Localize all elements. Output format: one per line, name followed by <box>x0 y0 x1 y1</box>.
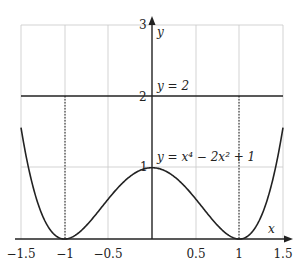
x-axis-arrow-icon <box>284 236 293 243</box>
tick-y2: 2 <box>139 90 147 104</box>
curve-label: y = x⁴ − 2x² + 1 <box>156 150 255 164</box>
y-axis-arrow-icon <box>149 16 156 25</box>
tick-x-1: 1 <box>235 247 243 261</box>
x-axis-label: x <box>268 222 275 236</box>
chart-canvas: 3 2 1 −1.5 −1 −0.5 0.5 1 1.5 x y y = 2 y… <box>0 0 302 272</box>
tick-x-m1: −1 <box>56 247 74 261</box>
line-label: y = 2 <box>156 79 189 93</box>
tick-y1: 1 <box>140 160 148 174</box>
tick-x-m1.5: −1.5 <box>6 247 35 261</box>
tick-x-0.5: 0.5 <box>186 247 205 261</box>
tick-y3: 3 <box>139 18 147 32</box>
y-axis-label: y <box>156 25 164 39</box>
tick-x-1.5: 1.5 <box>273 247 292 261</box>
axes <box>15 22 287 239</box>
tick-x-m0.5: −0.5 <box>93 247 122 261</box>
